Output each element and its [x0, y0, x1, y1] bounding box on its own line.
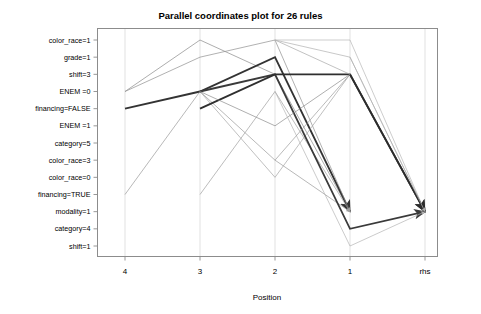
y-tick-label-4: financing=FALSE — [35, 104, 91, 113]
y-tick-label-12: shift=1 — [69, 242, 90, 251]
x-tick-label-1: 1 — [348, 267, 353, 276]
x-axis-title: Position — [253, 293, 281, 302]
x-tick-label-rhs: rhs — [419, 267, 430, 276]
x-tick-label-3: 3 — [198, 267, 203, 276]
y-tick-label-1: grade=1 — [64, 53, 91, 62]
y-tick-label-6: category=5 — [55, 139, 91, 148]
y-tick-label-9: financing=TRUE — [38, 190, 91, 199]
y-tick-label-5: ENEM =1 — [60, 121, 91, 130]
x-tick-label-2: 2 — [273, 267, 278, 276]
chart-title: Parallel coordinates plot for 26 rules — [158, 10, 322, 21]
y-tick-label-0: color_race=1 — [49, 36, 91, 45]
parallel-coordinates-plot: Parallel coordinates plot for 26 rules c… — [0, 0, 481, 314]
y-tick-label-11: category=4 — [55, 224, 91, 233]
y-tick-label-3: ENEM =0 — [60, 87, 91, 96]
y-tick-label-10: modality=1 — [56, 207, 91, 216]
chart-canvas: Parallel coordinates plot for 26 rules c… — [0, 0, 481, 314]
y-tick-label-8: color_race=0 — [49, 173, 91, 182]
y-tick-label-7: color_race=3 — [49, 156, 91, 165]
x-tick-label-4: 4 — [123, 267, 128, 276]
y-tick-label-2: shift=3 — [69, 70, 90, 79]
